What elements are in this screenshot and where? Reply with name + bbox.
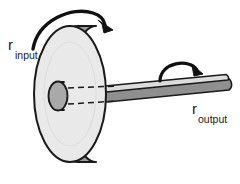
label-r-input-subscript: input	[15, 49, 38, 61]
disk-front-face	[34, 26, 106, 162]
label-r-input-symbol: r	[8, 36, 13, 53]
label-r-output-symbol: r	[192, 100, 197, 117]
wheel-and-axle-figure: r input r output	[0, 0, 240, 184]
diagram-canvas: r input r output	[0, 0, 240, 184]
label-r-output-subscript: output	[198, 113, 227, 125]
hub-boss	[49, 82, 68, 111]
hub-face	[49, 82, 68, 111]
wheel-disk	[34, 26, 106, 162]
